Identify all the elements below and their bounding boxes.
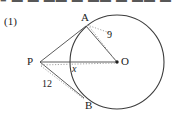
segment-pa: [40, 26, 86, 62]
measurement-label-12: 12: [42, 79, 52, 89]
item-number-label: (1): [4, 16, 17, 27]
point-label-p: P: [27, 56, 33, 67]
figure-canvas: ■ ▬ ▬ ▬▬ ▬ ▬▬ ▬ ▬▬ ▬ (1) A B P O 9 x 12: [0, 0, 175, 115]
center-point-marker-o: [115, 60, 118, 63]
measurement-label-radius: 9: [107, 30, 112, 40]
point-label-a: A: [81, 12, 89, 23]
point-label-b: B: [85, 100, 92, 111]
measurement-label-x: x: [72, 64, 76, 74]
point-label-o: O: [121, 56, 129, 67]
dotted-segment-px: [41, 63, 116, 65]
